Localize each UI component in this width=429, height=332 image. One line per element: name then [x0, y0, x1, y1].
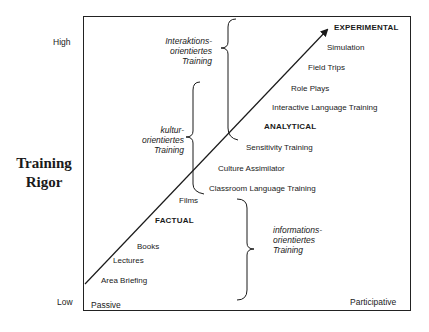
x-axis-left-label: Passive [91, 300, 121, 310]
grouping-interaktions-line3: Training [150, 56, 212, 66]
grouping-kultur: kultur- orientiertes Training [122, 125, 184, 155]
y-axis-title-line2: Rigor [14, 173, 74, 192]
grouping-kultur-line3: Training [122, 145, 184, 155]
method-films: Films [179, 196, 198, 205]
category-experimental: EXPERIMENTAL [334, 23, 398, 32]
method-role-plays: Role Plays [291, 84, 329, 93]
y-axis-low-label: Low [57, 297, 73, 307]
grouping-informations: informations- orientiertes Training [273, 225, 322, 255]
method-field-trips: Field Trips [308, 63, 345, 72]
grouping-interaktions: Interaktions- orientiertes Training [150, 36, 212, 66]
method-area-briefing: Area Briefing [101, 276, 147, 285]
category-analytical: ANALYTICAL [264, 122, 316, 131]
kultur-brace [186, 82, 204, 194]
method-classroom-language-training: Classroom Language Training [209, 184, 316, 193]
method-sensitivity-training: Sensitivity Training [246, 143, 313, 152]
y-axis-title-line1: Training [14, 154, 74, 173]
method-lectures: Lectures [113, 256, 144, 265]
y-axis-title: Training Rigor [14, 154, 74, 192]
grouping-kultur-line2: orientiertes [122, 135, 184, 145]
method-interactive-language-training: Interactive Language Training [272, 103, 377, 112]
grouping-interaktions-line1: Interaktions- [150, 36, 212, 46]
y-axis-high-label: High [53, 37, 70, 47]
informations-brace [237, 199, 254, 300]
grouping-kultur-line1: kultur- [122, 125, 184, 135]
category-factual: FACTUAL [155, 216, 194, 225]
grouping-interaktions-line2: orientiertes [150, 46, 212, 56]
interaktions-brace [221, 19, 238, 140]
grouping-informations-line1: informations- [273, 225, 322, 235]
method-simulation: Simulation [327, 43, 364, 52]
grouping-informations-line3: Training [273, 245, 322, 255]
method-books: Books [137, 242, 159, 251]
grouping-informations-line2: orientiertes [273, 235, 322, 245]
method-culture-assimilator: Culture Assimilator [218, 164, 285, 173]
x-axis-right-label: Participative [350, 297, 396, 307]
